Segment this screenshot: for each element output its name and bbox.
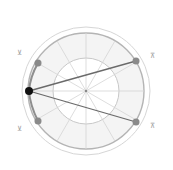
center-point	[85, 90, 87, 92]
point-active[interactable]	[25, 87, 33, 95]
label-top-left: ⊻	[17, 49, 22, 57]
label-bottom-right: ⊼	[150, 122, 155, 130]
point-lower-right[interactable]	[133, 119, 140, 126]
point-lower-left[interactable]	[35, 118, 42, 125]
label-bottom-left: ⊻	[17, 125, 22, 133]
label-top-right: ⊼	[150, 52, 155, 60]
point-upper-right[interactable]	[133, 58, 140, 65]
point-upper-left[interactable]	[35, 60, 42, 67]
polar-diagram: ⊻ ⊼ ⊻ ⊼	[0, 0, 173, 170]
